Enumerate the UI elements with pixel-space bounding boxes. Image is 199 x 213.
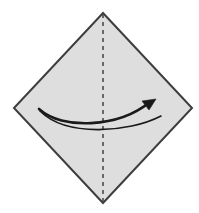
- diagram-canvas: [0, 0, 199, 213]
- origami-diagram: [0, 0, 199, 213]
